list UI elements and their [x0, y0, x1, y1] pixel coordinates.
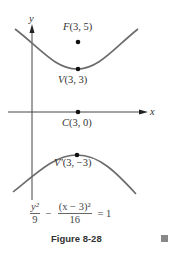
focus-point [76, 40, 81, 45]
end-of-example-mark [161, 235, 168, 242]
vertex-prime-label: V′(3, −3) [54, 157, 91, 168]
fraction-y: y² 9 [30, 201, 40, 226]
x-axis-arrow-icon [139, 110, 148, 115]
y-axis-label: y [29, 13, 34, 24]
x-axis-label: x [150, 106, 155, 117]
vertex-point [76, 67, 81, 72]
center-point [76, 110, 81, 115]
hyperbola-equation: y² 9 − (x − 3)² 16 = 1 [28, 201, 115, 226]
focus-label: F(3, 5) [63, 21, 92, 32]
vertex-label: V(3, 3) [58, 74, 87, 85]
upper-branch-curve [15, 29, 138, 69]
y-axis-arrow-icon [30, 24, 35, 33]
center-label: C(3, 0) [62, 117, 92, 128]
fraction-x: (x − 3)² 16 [58, 201, 92, 226]
figure-caption: Figure 8-28 [51, 233, 102, 244]
